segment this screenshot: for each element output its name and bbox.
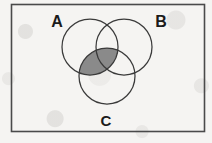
set-label-a: A	[51, 13, 63, 30]
venn-diagram-figure: A B C	[0, 0, 212, 143]
set-label-b: B	[155, 13, 167, 30]
circle-b	[96, 19, 152, 75]
set-label-c: C	[101, 112, 112, 129]
venn-diagram-canvas: A B C	[0, 0, 212, 143]
